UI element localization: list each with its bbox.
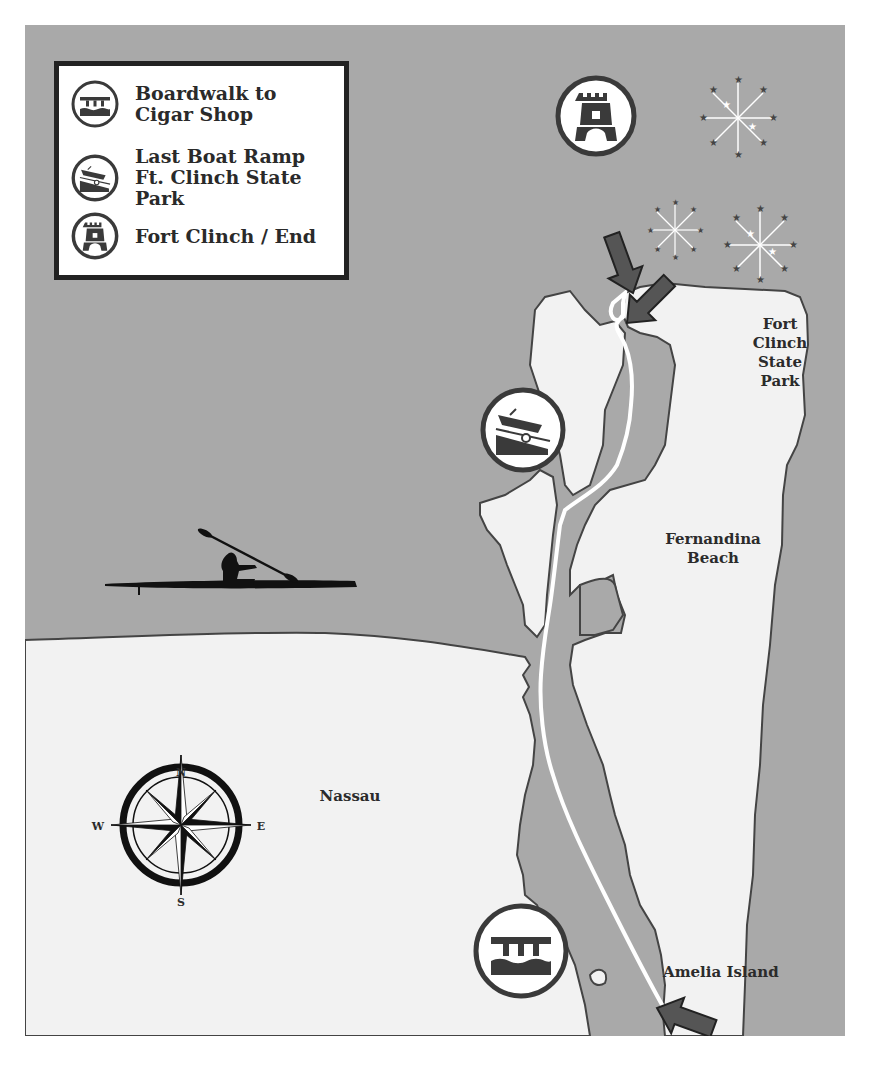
- svg-text:★: ★: [759, 137, 768, 148]
- label-line: Fort: [735, 315, 825, 334]
- label-amelia-island: Amelia Island: [663, 963, 793, 982]
- legend-item-boardwalk: Boardwalk to Cigar Shop: [71, 80, 335, 128]
- label-line: Fernandina: [653, 530, 773, 549]
- map-canvas: ★★★★ ★★★★ ★★ ★★★★ ★★★★ ★★★★ ★★★★: [25, 25, 845, 1036]
- svg-text:★: ★: [732, 263, 741, 274]
- label-nassau: Nassau: [310, 787, 390, 806]
- svg-text:★: ★: [732, 212, 741, 223]
- svg-text:★: ★: [734, 149, 743, 160]
- label-fort-clinch-state-park: Fort Clinch State Park: [735, 315, 825, 391]
- svg-text:★: ★: [759, 84, 768, 95]
- map-legend: Boardwalk to Cigar Shop Last Boat Ramp F…: [54, 61, 349, 280]
- svg-text:★: ★: [723, 239, 732, 250]
- compass-s: S: [175, 893, 187, 912]
- svg-text:★: ★: [768, 246, 777, 257]
- svg-text:★: ★: [654, 245, 661, 254]
- legend-label: Boardwalk to Cigar Shop: [135, 83, 335, 125]
- legend-label: Last Boat Ramp Ft. Clinch State Park: [135, 146, 335, 209]
- svg-text:★: ★: [699, 112, 708, 123]
- svg-text:★: ★: [756, 203, 765, 214]
- islet-2: [590, 970, 606, 985]
- fireworks-3: ★★★★ ★★★★ ★★: [723, 203, 798, 285]
- label-line: Clinch: [735, 334, 825, 353]
- svg-text:★: ★: [746, 228, 755, 239]
- svg-text:★: ★: [654, 205, 661, 214]
- svg-text:★: ★: [748, 121, 757, 132]
- compass-w: W: [91, 817, 105, 836]
- fort-tower-icon[interactable]: [555, 75, 637, 157]
- svg-text:★: ★: [780, 263, 789, 274]
- boat-ramp-icon: [71, 154, 119, 202]
- svg-text:★: ★: [647, 226, 654, 235]
- boardwalk-icon: [71, 80, 119, 128]
- svg-text:★: ★: [734, 74, 743, 85]
- legend-item-boat-ramp: Last Boat Ramp Ft. Clinch State Park: [71, 146, 335, 209]
- svg-text:★: ★: [789, 239, 798, 250]
- compass-e: E: [255, 817, 267, 836]
- kayak-silhouette: [105, 527, 357, 595]
- svg-text:★: ★: [672, 198, 679, 207]
- svg-text:★: ★: [769, 112, 778, 123]
- compass-n: N: [175, 763, 187, 782]
- channel-marsh: [580, 579, 623, 635]
- label-fernandina-beach: Fernandina Beach: [653, 530, 773, 568]
- svg-text:★: ★: [697, 226, 704, 235]
- svg-text:★: ★: [690, 245, 697, 254]
- svg-text:★: ★: [722, 99, 731, 110]
- svg-text:★: ★: [709, 84, 718, 95]
- svg-text:★: ★: [756, 274, 765, 285]
- legend-item-fort: Fort Clinch / End: [71, 212, 335, 260]
- boat-ramp-icon[interactable]: [480, 387, 566, 473]
- svg-text:★: ★: [672, 253, 679, 262]
- label-line: State: [735, 353, 825, 372]
- svg-text:★: ★: [690, 205, 697, 214]
- fireworks-1: ★★★★ ★★★★ ★★: [699, 74, 778, 160]
- svg-text:★: ★: [780, 212, 789, 223]
- svg-text:★: ★: [709, 137, 718, 148]
- fort-tower-icon: [71, 212, 119, 260]
- legend-label: Fort Clinch / End: [135, 226, 335, 247]
- boardwalk-icon[interactable]: [473, 903, 569, 999]
- fireworks-2: ★★★★ ★★★★: [647, 198, 704, 262]
- label-line: Park: [735, 372, 825, 391]
- label-line: Beach: [653, 549, 773, 568]
- marsh-peninsula-w: [480, 470, 557, 637]
